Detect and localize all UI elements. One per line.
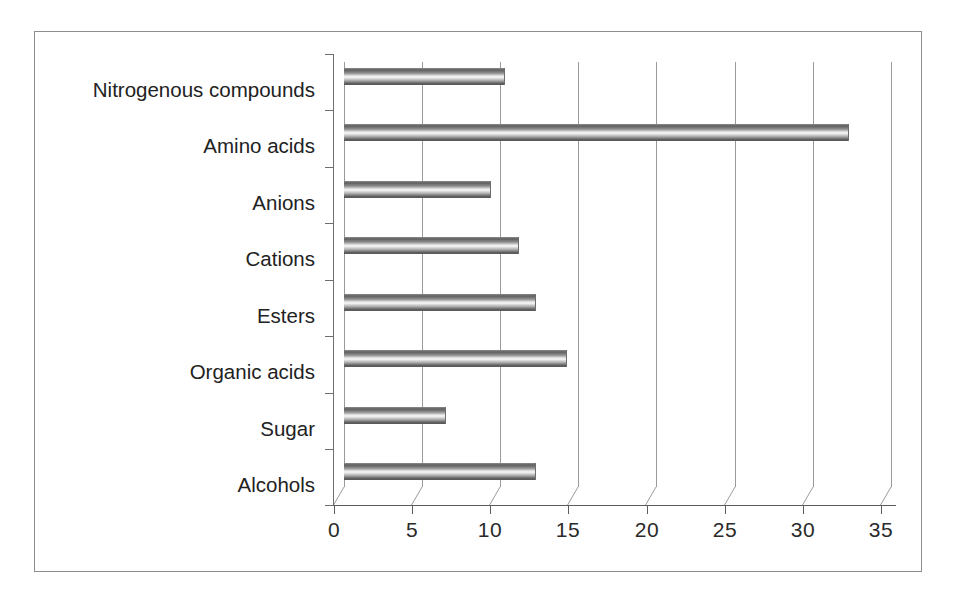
category-label-anions: Anions (15, 191, 315, 215)
x-axis-label-35: 35 (851, 518, 911, 542)
x-axis-label-0: 0 (304, 518, 364, 542)
y-axis-tick (325, 393, 334, 394)
y-axis-tick (325, 54, 334, 55)
y-axis-tick (325, 223, 334, 224)
category-label-nitrogenous-compounds: Nitrogenous compounds (15, 78, 315, 102)
gridline-skew-35 (880, 487, 903, 506)
x-axis-tick (881, 505, 882, 514)
gridline-skew-15 (567, 487, 590, 506)
bar-anions (344, 181, 491, 198)
x-axis-tick (647, 505, 648, 514)
x-axis-tick (568, 505, 569, 514)
gridline-skew-5 (411, 487, 434, 506)
x-axis-label-5: 5 (382, 518, 442, 542)
bar-cations (344, 237, 519, 254)
chart-page: Nitrogenous compounds Amino acids Anions… (0, 0, 956, 601)
x-axis-tick (490, 505, 491, 514)
x-axis-line (333, 505, 896, 506)
gridline-skew-30 (802, 487, 825, 506)
y-axis-tick (325, 336, 334, 337)
x-axis-tick (412, 505, 413, 514)
bar-sugar (344, 407, 446, 424)
bar-nitrogenous-compounds (344, 68, 505, 85)
y-axis-tick (325, 167, 334, 168)
bar-amino-acids (344, 124, 849, 141)
x-axis-label-10: 10 (460, 518, 520, 542)
x-axis-label-30: 30 (773, 518, 833, 542)
gridline-skew-10 (489, 487, 512, 506)
gridline-skew-20 (645, 487, 668, 506)
y-axis-tick (325, 449, 334, 450)
plot-area: Nitrogenous compounds Amino acids Anions… (0, 0, 956, 601)
y-axis-tick (325, 280, 334, 281)
gridline-35 (891, 62, 892, 487)
x-axis-tick (803, 505, 804, 514)
x-axis-tick (334, 505, 335, 514)
bar-esters (344, 294, 536, 311)
category-label-sugar: Sugar (15, 417, 315, 441)
bar-organic-acids (344, 350, 567, 367)
x-axis-label-25: 25 (695, 518, 755, 542)
category-label-cations: Cations (15, 247, 315, 271)
category-label-amino-acids: Amino acids (15, 134, 315, 158)
category-label-alcohols: Alcohols (15, 473, 315, 497)
gridline-skew-0 (333, 487, 356, 506)
bar-alcohols (344, 463, 536, 480)
category-label-organic-acids: Organic acids (15, 360, 315, 384)
category-label-esters: Esters (15, 304, 315, 328)
x-axis-label-15: 15 (538, 518, 598, 542)
y-axis-tick (325, 110, 334, 111)
x-axis-tick (725, 505, 726, 514)
x-axis-label-20: 20 (617, 518, 677, 542)
gridline-skew-25 (724, 487, 747, 506)
